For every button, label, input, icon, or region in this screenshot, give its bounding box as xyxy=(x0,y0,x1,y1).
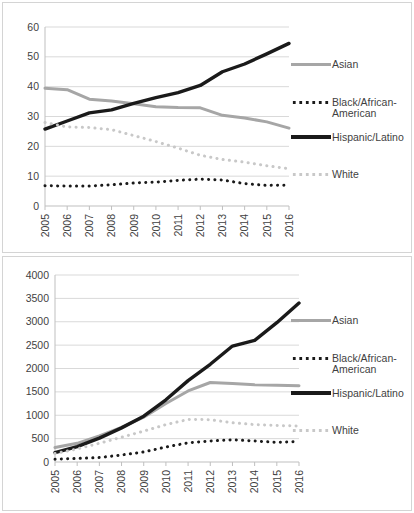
asian-line-swatch xyxy=(291,315,331,326)
hispanic-line-swatch xyxy=(291,388,331,399)
y-axis-tick-label: 50 xyxy=(27,50,39,62)
x-axis-tick-label: 2011 xyxy=(172,214,184,237)
x-axis-tick-label: 2005 xyxy=(39,214,51,238)
legend-label: Asian xyxy=(332,59,358,71)
x-axis-tick-label: 2014 xyxy=(238,214,250,238)
y-axis-tick-label: 1500 xyxy=(26,385,50,397)
legend-item-black-african-american[interactable]: Black/African- American xyxy=(291,353,404,376)
x-axis-tick-label: 2015 xyxy=(261,214,273,238)
legend-item-white[interactable]: White xyxy=(291,425,404,437)
x-axis-tick-label: 2005 xyxy=(49,470,61,494)
legend-item-black-african-american[interactable]: Black/African- American xyxy=(291,97,404,120)
y-axis-tick-label: 20 xyxy=(27,140,39,152)
x-axis-tick-label: 2013 xyxy=(226,470,238,494)
x-axis-tick-label: 2010 xyxy=(160,470,172,494)
x-axis-tick-label: 2007 xyxy=(83,214,95,238)
x-axis-tick-label: 2008 xyxy=(115,470,127,494)
x-axis-tick-label: 2015 xyxy=(271,470,283,494)
legend-label: Hispanic/Latino xyxy=(332,388,404,400)
y-axis-tick-label: 0 xyxy=(43,456,49,468)
legend-item-hispanic-latino[interactable]: Hispanic/Latino xyxy=(291,388,404,400)
legend-label: Hispanic/Latino xyxy=(332,132,404,144)
legend-item-white[interactable]: White xyxy=(291,169,404,181)
x-axis-tick-label: 2016 xyxy=(293,470,305,494)
black-line-swatch xyxy=(291,353,331,364)
legend-item-hispanic-latino[interactable]: Hispanic/Latino xyxy=(291,132,404,144)
y-axis-tick-label: 30 xyxy=(27,110,39,122)
white-line-swatch xyxy=(291,169,331,180)
x-axis-tick-label: 2013 xyxy=(216,214,228,238)
x-axis-tick-label: 2006 xyxy=(71,470,83,494)
y-axis-tick-label: 4000 xyxy=(26,269,50,281)
legend-label: Black/African- American xyxy=(332,97,397,120)
asian-line-swatch xyxy=(291,59,331,70)
y-axis-tick-label: 3500 xyxy=(26,292,50,304)
legend-label: White xyxy=(332,425,359,437)
legend-item-asian[interactable]: Asian xyxy=(291,59,404,71)
x-axis-tick-label: 2008 xyxy=(105,214,117,238)
legend-label: White xyxy=(332,169,359,181)
x-axis-tick-label: 2016 xyxy=(283,214,295,238)
y-axis-tick-label: 2500 xyxy=(26,339,50,351)
x-axis-tick-label: 2007 xyxy=(93,470,105,494)
y-axis-tick-label: 2000 xyxy=(26,362,50,374)
legend-label: Black/African- American xyxy=(332,353,397,376)
x-axis-tick-label: 2009 xyxy=(128,214,140,238)
y-axis-tick-label: 10 xyxy=(27,170,39,182)
x-axis-tick-label: 2010 xyxy=(150,214,162,238)
series-line xyxy=(55,303,299,453)
top-chart-panel: 0102030405060200520062007200820092010201… xyxy=(2,2,412,253)
hispanic-line-swatch xyxy=(291,132,331,143)
y-axis-tick-label: 3000 xyxy=(26,315,50,327)
white-line-swatch xyxy=(291,425,331,436)
x-axis-tick-label: 2012 xyxy=(204,470,216,494)
x-axis-tick-label: 2009 xyxy=(138,470,150,494)
series-line xyxy=(45,122,289,168)
y-axis-tick-label: 40 xyxy=(27,80,39,92)
series-line xyxy=(45,179,289,186)
top-chart-legend: AsianBlack/African- AmericanHispanic/Lat… xyxy=(291,59,404,181)
series-line xyxy=(55,419,299,453)
x-axis-tick-label: 2014 xyxy=(248,470,260,494)
legend-item-asian[interactable]: Asian xyxy=(291,315,404,327)
bottom-chart-legend: AsianBlack/African- AmericanHispanic/Lat… xyxy=(291,315,404,437)
y-axis-tick-label: 60 xyxy=(27,21,39,33)
y-axis-tick-label: 500 xyxy=(31,432,49,444)
legend-label: Asian xyxy=(332,315,358,327)
x-axis-tick-label: 2012 xyxy=(194,214,206,238)
y-axis-tick-label: 1000 xyxy=(26,409,50,421)
x-axis-tick-label: 2006 xyxy=(61,214,73,238)
x-axis-tick-label: 2011 xyxy=(182,470,194,493)
bottom-chart-panel: 0500100015002000250030003500400020052006… xyxy=(2,256,412,511)
black-line-swatch xyxy=(291,97,331,108)
y-axis-tick-label: 0 xyxy=(33,200,39,212)
